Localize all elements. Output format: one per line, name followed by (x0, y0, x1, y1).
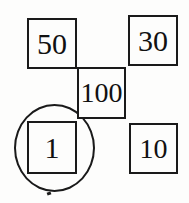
node-label-10: 10 (140, 135, 168, 163)
node-label-100: 100 (81, 79, 123, 107)
circle-tick-mark (47, 191, 52, 195)
node-box-50[interactable]: 50 (27, 18, 77, 69)
node-box-100[interactable]: 100 (77, 67, 126, 119)
node-box-1[interactable]: 1 (27, 121, 77, 174)
diagram-canvas: 50 30 100 1 10 (0, 0, 189, 203)
node-box-10[interactable]: 10 (129, 123, 178, 174)
node-label-30: 30 (138, 26, 168, 56)
node-label-50: 50 (37, 29, 67, 59)
node-label-1: 1 (45, 133, 60, 163)
node-box-30[interactable]: 30 (128, 15, 178, 66)
